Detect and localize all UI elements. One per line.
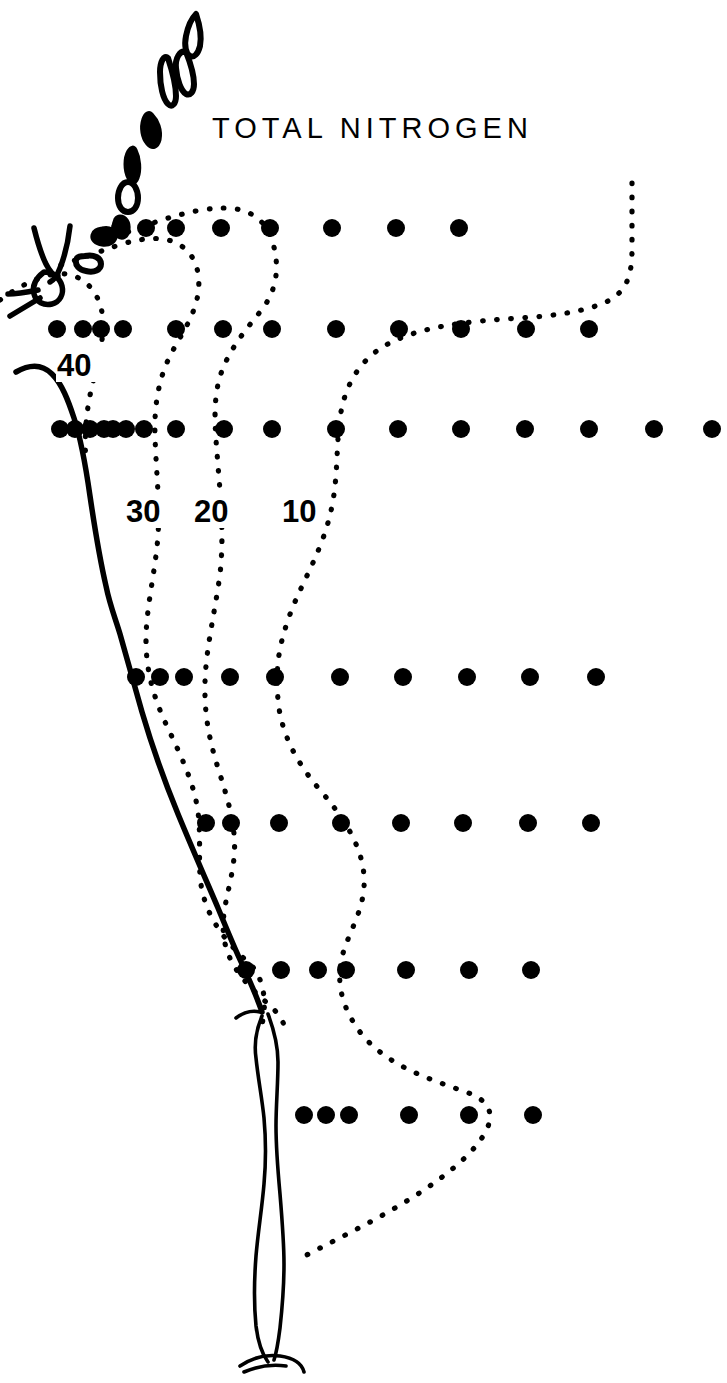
sampling-station-dot (270, 814, 288, 832)
sampling-station-dot (266, 668, 284, 686)
sampling-station-dot (309, 961, 327, 979)
sampling-station-dot (389, 420, 407, 438)
contour-label-10: 10 (282, 494, 316, 529)
sampling-station-dot (327, 320, 345, 338)
coastline-north-headland-west (34, 228, 58, 276)
sampling-station-dot (521, 668, 539, 686)
sampling-station-dot (524, 1106, 542, 1124)
sampling-station-dot (460, 961, 478, 979)
sampling-station-dot (327, 420, 345, 438)
sampling-station-dot (587, 668, 605, 686)
coastline-group (8, 226, 304, 1372)
map-canvas: TOTAL NITROGEN (0, 0, 727, 1383)
sampling-station-dot (167, 420, 185, 438)
sampling-station-dot (460, 1106, 478, 1124)
sampling-station-dot (392, 814, 410, 832)
sampling-station-dot (340, 1106, 358, 1124)
contour-label-20: 20 (194, 494, 228, 529)
sampling-station-dot (167, 219, 185, 237)
sampling-station-dot (222, 814, 240, 832)
sampling-station-dot (397, 961, 415, 979)
sampling-station-dot (214, 320, 232, 338)
sampling-station-dot (452, 320, 470, 338)
sampling-station-dot (580, 320, 598, 338)
sampling-station-dot (221, 668, 239, 686)
sampling-station-dot (167, 320, 185, 338)
sampling-station-dot (519, 814, 537, 832)
sampling-station-dot (337, 961, 355, 979)
sampling-station-dot (272, 961, 290, 979)
sampling-station-dot (48, 320, 66, 338)
sampling-station-dot (331, 668, 349, 686)
sampling-station-dot (117, 420, 135, 438)
sampling-station-dot (197, 814, 215, 832)
sampling-station-dot (332, 814, 350, 832)
sampling-station-dot (74, 320, 92, 338)
island-elongated-1-icon (176, 52, 194, 95)
sampling-station-dot (450, 219, 468, 237)
sampling-station-dot (582, 814, 600, 832)
sampling-station-dot (135, 420, 153, 438)
contour-label-30: 30 (126, 494, 160, 529)
sampling-station-dot (454, 814, 472, 832)
coastline-spit-west (255, 1016, 269, 1362)
sampling-station-dot (127, 668, 145, 686)
sampling-station-dot (263, 420, 281, 438)
coastline-north-arm-lower (10, 298, 40, 316)
sampling-station-dot (703, 420, 721, 438)
coastline-spit-tip-inner (244, 1365, 286, 1372)
island-ring-icon (118, 182, 138, 212)
sampling-station-dot (151, 668, 169, 686)
sampling-station-dot (522, 961, 540, 979)
sampling-station-dot (394, 668, 412, 686)
contour-isopleth-10 (277, 183, 632, 1258)
sampling-station-dot (387, 219, 405, 237)
sampling-station-dot (237, 961, 255, 979)
sampling-station-dot (452, 420, 470, 438)
sampling-station-dot (317, 1106, 335, 1124)
contour-isopleth-20 (128, 208, 286, 1035)
island-mid-2-icon (125, 147, 140, 182)
sampling-station-dot (263, 320, 281, 338)
sampling-station-dot (390, 320, 408, 338)
sampling-station-dot (580, 420, 598, 438)
contour-label-group: 40 30 20 10 (56, 348, 324, 529)
sampling-station-dot (400, 1106, 418, 1124)
sampling-station-dot (323, 219, 341, 237)
coastline-spit-east (268, 1014, 284, 1360)
sampling-station-dot (516, 420, 534, 438)
sampling-station-dot (212, 219, 230, 237)
coastline-inlet-upper (236, 1011, 260, 1018)
sampling-station-dot (111, 219, 129, 237)
island-mid-1-icon (142, 113, 161, 148)
sampling-station-dot (137, 219, 155, 237)
sampling-station-dot (261, 219, 279, 237)
sampling-station-dot (295, 1106, 313, 1124)
sampling-station-dot (114, 320, 132, 338)
sampling-station-dot (175, 668, 193, 686)
page-title: TOTAL NITROGEN (212, 112, 533, 144)
contour-group (0, 183, 632, 1258)
sampling-station-dot (92, 320, 110, 338)
sampling-station-dot (645, 420, 663, 438)
sampling-station-dot (517, 320, 535, 338)
figure-total-nitrogen-contour-map: TOTAL NITROGEN (0, 0, 727, 1383)
sampling-station-dot (458, 668, 476, 686)
sampling-station-dot (215, 420, 233, 438)
contour-label-40: 40 (57, 348, 91, 383)
